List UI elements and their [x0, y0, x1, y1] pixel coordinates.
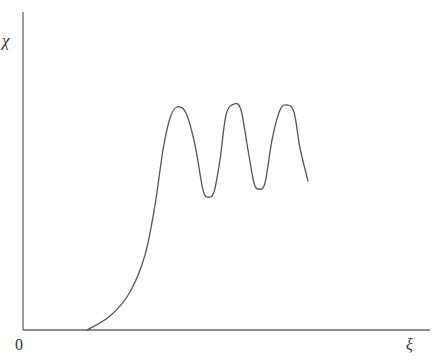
data-curve: [87, 103, 308, 330]
x-axis-label: ξ: [406, 336, 413, 354]
origin-label: 0: [15, 336, 23, 354]
chart-canvas: [0, 0, 441, 364]
y-axis-label: χ: [2, 31, 9, 51]
